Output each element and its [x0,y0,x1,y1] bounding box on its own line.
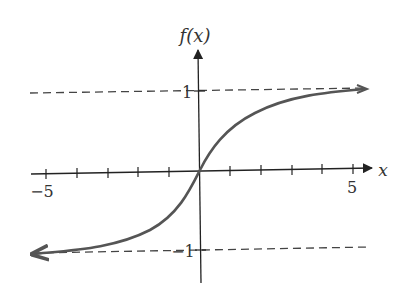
x-axis-label: x [378,160,388,180]
y-tick-label-neg1: −1 [171,242,195,261]
y-tick-label-1: 1 [182,83,192,102]
y-axis-label: f(x) [178,25,211,46]
x-tick-label-neg5: −5 [30,182,54,201]
sigmoid-chart: f(x) x −5 5 1 −1 [0,0,408,296]
x-tick-label-5: 5 [347,178,357,197]
sigmoid-curve [34,89,365,254]
